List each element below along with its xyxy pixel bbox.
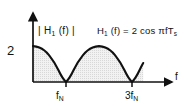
equation-subscript-tail: s [174,30,177,37]
x-axis-tick-label-fn: fN [56,91,64,101]
y-axis-title-subscript: 1 [52,30,56,37]
plot-canvas [0,0,188,111]
equation-lead: H [97,25,104,36]
y-axis-title-tail: (f) | [56,25,75,36]
x-tick-3fn-subscript: N [133,95,138,102]
x-axis-title: f [175,72,178,82]
x-tick-fn-subscript: N [59,95,64,102]
equation-subscript: 1 [104,30,108,37]
y-axis-title-lead: | H [38,25,52,36]
equation-body: (f) = 2 cos πfT [108,25,174,36]
figure-container: | H1 (f) | H1 (f) = 2 cos πfTs 2 fN 3fN … [0,0,188,111]
y-axis-title: | H1 (f) | [38,26,75,36]
x-axis-tick-label-3fn: 3fN [125,91,138,101]
equation-annotation: H1 (f) = 2 cos πfTs [97,26,177,36]
y-axis-tick-label-2: 2 [7,44,14,57]
